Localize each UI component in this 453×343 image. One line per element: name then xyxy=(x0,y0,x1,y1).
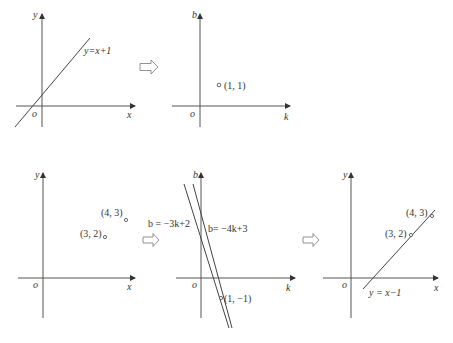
origin-label: o xyxy=(33,279,38,290)
line-b-eq-neg3k-plus-2 xyxy=(184,184,229,328)
y-axis-label: y xyxy=(34,169,40,180)
line-b-eq-neg4k-plus-3 xyxy=(193,184,232,328)
point-label: (1, 1) xyxy=(224,80,246,92)
line-label: y = x−1 xyxy=(368,287,401,298)
line-y-eq-x-minus-1 xyxy=(363,210,435,289)
implies-arrow-icon xyxy=(140,60,158,74)
k-axis-label: k xyxy=(284,111,289,122)
implies-arrow-icon xyxy=(303,234,319,247)
line-label: y=x+1 xyxy=(83,45,111,56)
x-axis-label: x xyxy=(433,282,439,293)
y-axis-label: y xyxy=(342,169,348,180)
line-y-eq-x-plus-1 xyxy=(15,38,90,127)
point-4-3 xyxy=(430,214,433,217)
k-axis-label: k xyxy=(286,282,291,293)
panel-4-graph: b k o b = −3k+2 b= −4k+3 (1, −1) xyxy=(148,169,295,328)
point-label: (4, 3) xyxy=(101,207,123,219)
point-label: (1, −1) xyxy=(224,293,251,305)
y-axis-label: y xyxy=(32,9,38,20)
point-1-1 xyxy=(217,83,221,87)
point-4-3 xyxy=(124,218,127,221)
point-3-2 xyxy=(409,233,412,236)
implies-arrow-icon xyxy=(143,234,159,247)
point-label: (3, 2) xyxy=(80,228,102,240)
point-1-neg1 xyxy=(219,296,222,299)
origin-label: o xyxy=(192,279,197,290)
panel-3-graph: y x o (4, 3) (3, 2) xyxy=(18,169,135,318)
point-label: (3, 2) xyxy=(385,228,407,240)
line-label: b= −4k+3 xyxy=(208,223,247,234)
point-3-2 xyxy=(103,235,106,238)
origin-label: o xyxy=(32,108,37,119)
origin-label: o xyxy=(342,279,347,290)
panel-1-graph: y x o y=x+1 xyxy=(15,9,135,127)
panel-5-graph: y x o y = x−1 (4, 3) (3, 2) xyxy=(323,169,439,318)
origin-label: o xyxy=(190,108,195,119)
x-axis-label: x xyxy=(126,281,132,292)
panel-2-graph: b k o (1, 1) xyxy=(172,9,290,127)
x-axis-label: x xyxy=(126,109,132,120)
b-axis-label: b xyxy=(192,9,197,20)
b-axis-label: b xyxy=(193,169,198,180)
point-label: (4, 3) xyxy=(406,207,428,219)
line-label: b = −3k+2 xyxy=(148,218,190,229)
